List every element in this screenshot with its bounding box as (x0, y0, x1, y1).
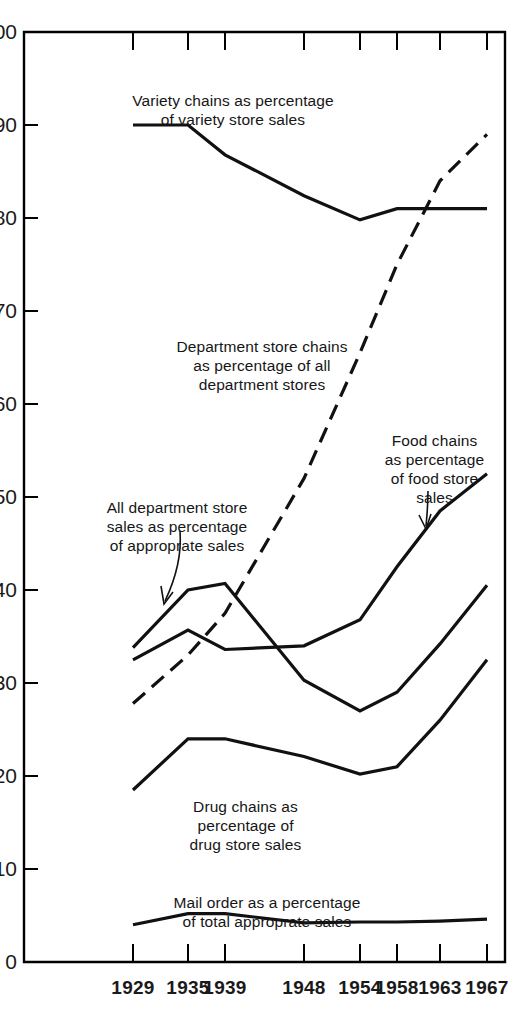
y-axis-ticks (24, 32, 38, 962)
x-tick-label: 1939 (203, 977, 246, 998)
annotation-mail-order: Mail order as a percentage of total appr… (150, 874, 384, 931)
series-line-0 (133, 125, 487, 220)
series-line-4 (133, 660, 487, 790)
x-axis-tick-labels: 19291935193919481954195819631967 (111, 977, 508, 998)
chart-container: 0102030405060708090100 19291935193919481… (0, 0, 528, 1021)
x-tick-label: 1963 (418, 977, 461, 998)
annotation-text: Drug chains as percentage of drug store … (190, 798, 302, 853)
annotation-food-chains: Food chains as percentage of food store … (362, 412, 507, 507)
y-tick-label: 20 (0, 764, 17, 787)
annotation-text: Food chains as percentage of food store … (385, 432, 485, 506)
x-tick-label: 1948 (282, 977, 325, 998)
y-tick-label: 100 (0, 20, 17, 43)
y-tick-label: 70 (0, 299, 17, 322)
annotation-text: All department store sales as percentage… (107, 499, 248, 554)
x-tick-label: 1967 (465, 977, 508, 998)
x-tick-label: 1929 (111, 977, 154, 998)
annotation-department-chains: Department store chains as percentage of… (130, 318, 394, 394)
annotation-text: Variety chains as percentage of variety … (132, 92, 334, 128)
annotation-text: Mail order as a percentage of total appr… (174, 894, 361, 930)
y-tick-label: 50 (0, 485, 17, 508)
y-tick-label: 10 (0, 857, 17, 880)
y-tick-label: 60 (0, 392, 17, 415)
y-tick-label: 0 (5, 950, 17, 973)
x-tick-label: 1958 (375, 977, 418, 998)
annotation-variety-chains: Variety chains as percentage of variety … (0, 72, 466, 129)
series-line-3 (133, 584, 487, 711)
y-tick-label: 30 (0, 671, 17, 694)
y-tick-label: 80 (0, 206, 17, 229)
annotation-drug-chains: Drug chains as percentage of drug store … (173, 778, 318, 854)
annotation-text: Department store chains as percentage of… (176, 338, 347, 393)
annotation-all-department-store: All department store sales as percentage… (82, 479, 272, 555)
y-axis-tick-labels: 0102030405060708090100 (0, 20, 17, 973)
y-tick-label: 40 (0, 578, 17, 601)
